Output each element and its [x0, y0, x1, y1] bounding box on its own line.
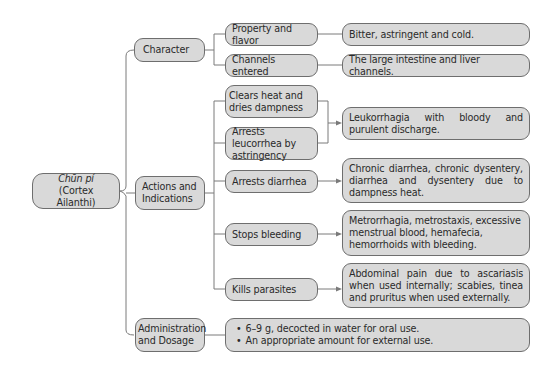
character-node: Character: [134, 38, 205, 62]
administration-detail: 6–9 g, decocted in water for oral use. A…: [225, 318, 530, 352]
diarrhea-detail: Chronic diarrhea, chronic dysentery, dia…: [342, 158, 530, 203]
channels-entered-label: Channels entered: [232, 54, 311, 78]
arrests-leucorrhea-label: Arrests leucorrhea by astringency: [232, 126, 311, 162]
arrests-diarrhea-label: Arrests diarrhea: [232, 176, 306, 188]
root-title: Chūn pí: [58, 173, 94, 184]
root-node: Chūn pí (Cortex Ailanthi): [32, 173, 120, 209]
actions-node: Actions and Indications: [135, 176, 205, 210]
clears-heat-label: Clears heat and dries dampness: [229, 90, 314, 114]
actions-label-line2: Indications: [142, 193, 193, 204]
actions-label-line1: Actions and: [142, 181, 197, 192]
administration-label-line1: Administration: [138, 323, 206, 334]
parasites-detail: Abdominal pain due to ascariasis when us…: [342, 263, 530, 308]
leukorrhagia-text: Leukorrhagia with bloody and purulent di…: [349, 112, 523, 136]
bleeding-detail: Metrorrhagia, metrostaxis, excessive men…: [342, 210, 530, 256]
dosage-bullet: An appropriate amount for external use.: [236, 335, 523, 347]
arrests-leucorrhea-node: Arrests leucorrhea by astringency: [225, 127, 318, 160]
kills-parasites-label: Kills parasites: [232, 284, 296, 296]
diarrhea-text: Chronic diarrhea, chronic dysentery, dia…: [349, 163, 523, 199]
administration-label-line2: and Dosage: [138, 335, 194, 346]
kills-parasites-node: Kills parasites: [225, 278, 318, 301]
property-flavor-text: Bitter, astringent and cold.: [349, 29, 474, 41]
dosage-bullet: 6–9 g, decocted in water for oral use.: [236, 323, 523, 335]
arrests-diarrhea-node: Arrests diarrhea: [225, 170, 318, 193]
root-subtitle: (Cortex Ailanthi): [57, 185, 96, 208]
leukorrhagia-detail: Leukorrhagia with bloody and purulent di…: [342, 107, 530, 140]
stops-bleeding-node: Stops bleeding: [225, 223, 318, 246]
property-flavor-node: Property and flavor: [225, 23, 318, 46]
parasites-text: Abdominal pain due to ascariasis when us…: [349, 268, 523, 304]
channels-entered-node: Channels entered: [225, 54, 318, 77]
clears-heat-node: Clears heat and dries dampness: [225, 85, 318, 118]
character-label: Character: [143, 44, 189, 56]
channels-entered-text: The large intestine and liver channels.: [349, 54, 523, 78]
administration-node: Administration and Dosage: [135, 318, 205, 352]
property-flavor-label: Property and flavor: [232, 23, 311, 47]
stops-bleeding-label: Stops bleeding: [232, 229, 301, 241]
property-flavor-detail: Bitter, astringent and cold.: [342, 23, 530, 46]
channels-entered-detail: The large intestine and liver channels.: [342, 54, 530, 77]
bleeding-text: Metrorrhagia, metrostaxis, excessive men…: [349, 215, 523, 251]
